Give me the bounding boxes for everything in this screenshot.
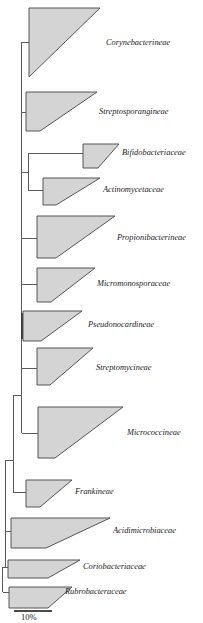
taxon-label-coriobacteriaceae: Coriobacteriaceae (83, 562, 146, 571)
clade-wedge-corynebacterineae[interactable] (29, 8, 100, 77)
taxon-labels: Corynebacterineae Streptosporangineae Bi… (64, 38, 186, 596)
clade-wedge-rubrobacteraceae[interactable] (9, 587, 72, 608)
taxon-label-micrococcineae: Micrococcineae (126, 428, 181, 437)
taxon-label-corynebacterineae: Corynebacterineae (106, 38, 170, 47)
clade-wedge-pseudonocardineae[interactable] (23, 311, 82, 341)
taxon-label-streptosporangineae: Streptosporangineae (99, 107, 169, 116)
clade-wedge-propionibacterineae[interactable] (37, 216, 115, 258)
clade-wedge-micromonosporaceae[interactable] (37, 268, 95, 302)
taxon-label-micromonosporaceae: Micromonosporaceae (96, 279, 170, 288)
taxon-label-pseudonocardineae: Pseudonocardineae (87, 320, 154, 329)
taxon-label-acidimicrobiaceae: Acidimicrobiaceae (112, 526, 176, 535)
clade-wedge-actinomycetaceae[interactable] (43, 178, 100, 205)
clade-wedge-frankineae[interactable] (26, 480, 72, 507)
scale-bar-label: 10% (21, 612, 37, 622)
phylogenetic-tree-figure: Corynebacterineae Streptosporangineae Bi… (0, 0, 203, 623)
taxon-label-rubrobacteraceae: Rubrobacteraceae (64, 587, 127, 596)
tree-canvas: Corynebacterineae Streptosporangineae Bi… (0, 0, 203, 623)
clade-wedge-coriobacteriaceae[interactable] (8, 560, 80, 578)
clade-wedge-micrococcineae[interactable] (38, 407, 123, 458)
taxon-label-propionibacterineae: Propionibacterineae (116, 233, 186, 242)
clade-wedges (8, 8, 123, 608)
taxon-label-streptomycineae: Streptomycineae (96, 363, 152, 372)
taxon-label-actinomycetaceae: Actinomycetaceae (102, 185, 164, 194)
scale-bar: 10% (14, 611, 52, 622)
clade-wedge-bifidobacteriaceae[interactable] (83, 144, 119, 168)
taxon-label-frankineae: Frankineae (74, 487, 114, 496)
clade-wedge-acidimicrobiaceae[interactable] (11, 518, 110, 548)
taxon-label-bifidobacteriaceae: Bifidobacteriaceae (122, 148, 186, 157)
clade-wedge-streptosporangineae[interactable] (26, 92, 97, 131)
clade-wedge-streptomycineae[interactable] (37, 348, 93, 385)
